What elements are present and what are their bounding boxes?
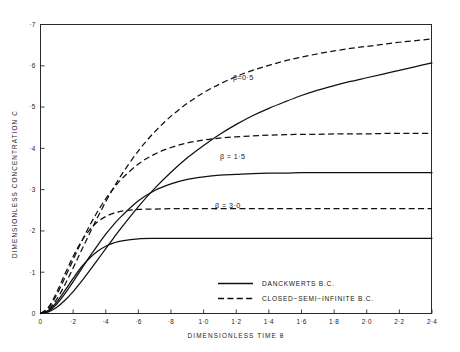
x-tick-label: 2·2 xyxy=(394,318,404,325)
curve-series-2 xyxy=(41,173,433,314)
annotation-beta-0: β=0·5 xyxy=(233,73,254,82)
annotation-beta-1: β = 1·5 xyxy=(220,152,246,161)
x-tick-label: 1·4 xyxy=(264,318,274,325)
legend-label-closed-semi-infinite: CLOSED−SEMI−INFINITE B.C. xyxy=(262,295,374,302)
curve-series-4 xyxy=(41,238,433,313)
concentration-vs-time-chart: 0·2·4·6·81·01·21·41·61·82·02·22·40·1·2·3… xyxy=(0,0,460,352)
legend-label-danckwerts: DANCKWERTS B.C. xyxy=(262,280,335,287)
x-axis-title: DIMENSIONLESS TIME θ xyxy=(188,332,285,339)
y-tick-label: ·3 xyxy=(29,186,35,193)
plot-frame xyxy=(41,24,433,314)
x-tick-label: 2·4 xyxy=(427,318,437,325)
y-tick-label: 0 xyxy=(32,310,36,317)
y-axis-title: DIMENSIONLESS CONCENTRATION C xyxy=(11,110,18,258)
x-tick-label: 2·0 xyxy=(362,318,372,325)
x-tick-label: 1·0 xyxy=(199,318,209,325)
x-tick-label: ·4 xyxy=(103,318,109,325)
y-tick-label: ·4 xyxy=(29,145,35,152)
y-tick-label: ·2 xyxy=(29,227,35,234)
x-tick-label: 0 xyxy=(39,318,43,325)
curve-series-0 xyxy=(41,63,433,314)
x-tick-label: 1·8 xyxy=(329,318,339,325)
x-tick-label: 1·2 xyxy=(231,318,241,325)
y-tick-label: ·7 xyxy=(29,21,35,28)
y-tick-label: ·5 xyxy=(29,103,35,110)
x-tick-label: ·6 xyxy=(135,318,141,325)
figure-page: 0·2·4·6·81·01·21·41·61·82·02·22·40·1·2·3… xyxy=(0,0,460,352)
series-annotations: β=0·5β = 1·5β = 3·0 xyxy=(215,73,254,210)
y-tick-label: ·1 xyxy=(29,269,35,276)
y-tick-label: ·6 xyxy=(29,62,35,69)
x-tick-label: ·2 xyxy=(70,318,76,325)
legend: DANCKWERTS B.C. CLOSED−SEMI−INFINITE B.C… xyxy=(218,280,374,302)
x-tick-label: 1·6 xyxy=(296,318,306,325)
x-tick-label: ·8 xyxy=(168,318,174,325)
annotation-beta-2: β = 3·0 xyxy=(215,201,241,210)
